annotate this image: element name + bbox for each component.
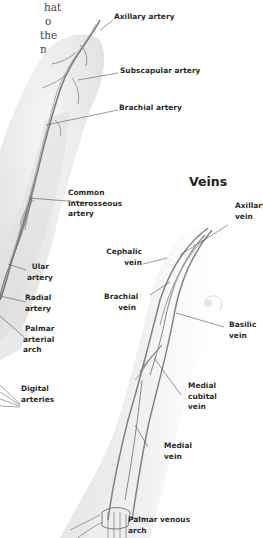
veins-title: Veins bbox=[189, 174, 227, 189]
label-brachial-artery: Brachial artery bbox=[119, 103, 182, 114]
label-palmar-venous-arch: Palmar venous arch bbox=[128, 515, 190, 536]
anatomy-diagram: hat o the n bbox=[0, 0, 263, 538]
label-axillary-vein: Axillary vein bbox=[235, 201, 263, 222]
label-ulnar-artery: Ular artery bbox=[27, 262, 49, 283]
label-radial-artery: Radial artery bbox=[25, 293, 49, 314]
label-basilic-vein: Basilic vein bbox=[229, 320, 256, 341]
label-brachial-vein: Brachial vein bbox=[104, 292, 136, 313]
label-medial-cubital-vein: Medial cubital vein bbox=[188, 381, 217, 413]
label-common-interosseous-artery: Common interosseous artery bbox=[68, 188, 122, 220]
label-palmar-arterial-arch: Palmar arterial arch bbox=[23, 324, 54, 356]
label-cephalic-vein: Cephalic vein bbox=[106, 247, 142, 268]
label-axillary-artery: Axillary artery bbox=[114, 12, 175, 23]
label-digital-arteries: Digital arteries bbox=[21, 384, 54, 405]
label-subscapular-artery: Subscapular artery bbox=[120, 66, 200, 77]
label-medial-vein: Medial vein bbox=[164, 441, 192, 462]
